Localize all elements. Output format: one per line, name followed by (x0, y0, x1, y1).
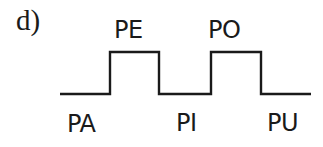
segment-label-pi: PI (176, 111, 197, 135)
segment-label-po: PO (208, 18, 240, 42)
segment-label-pa: PA (67, 112, 95, 136)
segment-label-pe: PE (114, 18, 143, 42)
waveform-line (60, 52, 311, 94)
segment-label-pu: PU (267, 111, 298, 135)
